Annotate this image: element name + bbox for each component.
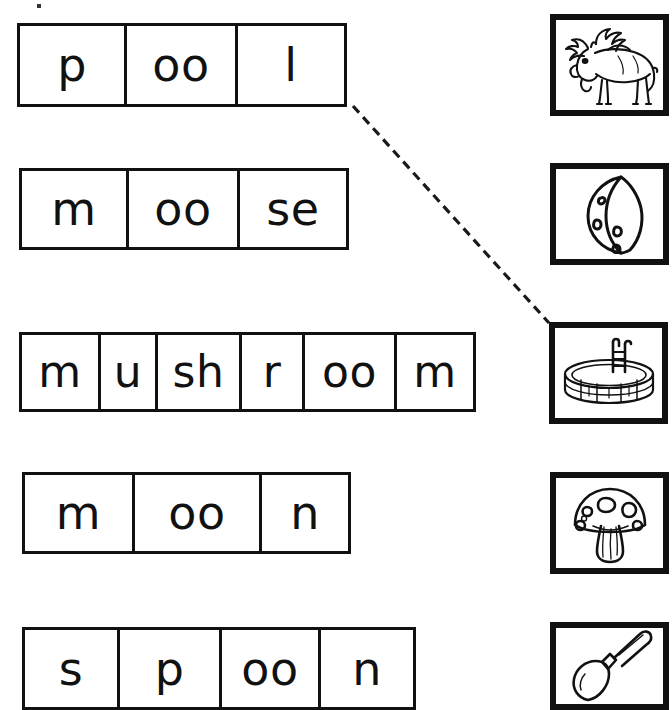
picture-moon[interactable] (550, 163, 669, 265)
spoon-icon (564, 628, 656, 704)
pool-icon (557, 334, 661, 412)
picture-spoon[interactable] (550, 622, 669, 710)
picture-moose[interactable] (550, 14, 669, 116)
word-segment: oo (126, 168, 240, 250)
connector-pool (353, 106, 549, 323)
word-segment: p (17, 23, 127, 107)
picture-mushroom[interactable] (550, 472, 669, 574)
mushroom-icon (567, 481, 653, 565)
moon-icon (568, 171, 652, 257)
pool-icon (557, 334, 661, 412)
word-segment: s (22, 627, 120, 710)
word-strip-pool[interactable]: pool (17, 23, 347, 107)
word-strip-moose[interactable]: moose (19, 168, 349, 250)
word-segment: m (19, 168, 129, 250)
word-segment: sh (155, 332, 242, 412)
moon-icon (568, 171, 652, 257)
picture-pool[interactable] (549, 322, 668, 424)
scan-speck (37, 4, 41, 8)
word-segment: m (22, 472, 135, 554)
word-strip-spoon[interactable]: spoon (22, 627, 416, 710)
moose-icon (558, 22, 662, 108)
spoon-icon (564, 628, 656, 704)
word-segment: oo (219, 627, 321, 710)
worksheet-page: poolmoosemushroommoonspoon (0, 0, 672, 710)
word-segment: n (318, 627, 416, 710)
mushroom-icon (567, 481, 653, 565)
word-segment: l (235, 23, 347, 107)
moose-icon (558, 22, 662, 108)
word-segment: m (19, 332, 101, 412)
word-segment: p (117, 627, 222, 710)
word-segment: m (394, 332, 476, 412)
word-segment: r (239, 332, 305, 412)
word-strip-mushroom[interactable]: mushroom (19, 332, 476, 412)
word-segment: oo (302, 332, 397, 412)
word-segment: oo (124, 23, 238, 107)
word-segment: u (98, 332, 158, 412)
word-segment: n (259, 472, 351, 554)
word-segment: oo (132, 472, 262, 554)
word-segment: se (237, 168, 349, 250)
word-strip-moon[interactable]: moon (22, 472, 351, 554)
